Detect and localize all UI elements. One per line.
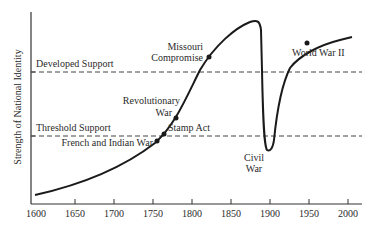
missouri-compromise-marker bbox=[207, 55, 212, 60]
world-war-ii-marker bbox=[305, 41, 310, 46]
y-axis-label: Strength of National Identity bbox=[12, 49, 23, 164]
french-indian-war-marker bbox=[155, 139, 160, 144]
national-identity-chart: 1600 1650 1700 1750 1800 1850 1900 1950 … bbox=[0, 0, 379, 229]
stamp-act-label: Stamp Act bbox=[168, 122, 210, 133]
missouri-compromise-label-1: Missouri bbox=[167, 41, 203, 52]
svg-text:2000: 2000 bbox=[338, 208, 358, 219]
world-war-ii-label: World War II bbox=[292, 47, 345, 58]
svg-text:1650: 1650 bbox=[65, 208, 85, 219]
missouri-compromise-label-2: Compromise bbox=[151, 52, 203, 63]
svg-text:1700: 1700 bbox=[104, 208, 124, 219]
svg-text:1750: 1750 bbox=[143, 208, 163, 219]
revolutionary-war-marker bbox=[174, 116, 179, 121]
threshold-support-label: Threshold Support bbox=[36, 122, 111, 133]
revolutionary-war-label-2: War bbox=[156, 107, 173, 118]
civil-war-label-2: War bbox=[246, 163, 263, 174]
svg-text:1800: 1800 bbox=[182, 208, 202, 219]
x-ticks bbox=[75, 199, 348, 204]
svg-text:1900: 1900 bbox=[260, 208, 280, 219]
civil-war-label-1: Civil bbox=[244, 152, 264, 163]
svg-text:1950: 1950 bbox=[299, 208, 319, 219]
developed-support-label: Developed Support bbox=[36, 58, 114, 69]
svg-text:1600: 1600 bbox=[26, 208, 46, 219]
x-tick-labels: 1600 1650 1700 1750 1800 1850 1900 1950 … bbox=[26, 208, 358, 219]
french-indian-war-label: French and Indian War bbox=[62, 137, 154, 148]
svg-text:1850: 1850 bbox=[221, 208, 241, 219]
revolutionary-war-label-1: Revolutionary bbox=[123, 95, 180, 106]
stamp-act-marker bbox=[162, 132, 167, 137]
